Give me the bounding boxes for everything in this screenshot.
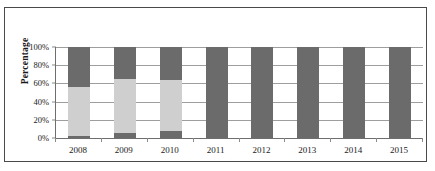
x-tick-mark: [284, 138, 285, 142]
bar-slot: [194, 47, 240, 138]
stacked-bar[interactable]: [68, 47, 90, 138]
bar-slot: [331, 47, 377, 138]
plot-area: [55, 47, 423, 139]
y-tick-label: 40%: [33, 97, 49, 107]
bar-segment[interactable]: [343, 47, 365, 138]
x-tick-slot: 2010: [147, 138, 193, 162]
x-tick-label: 2008: [55, 145, 101, 155]
stacked-bar[interactable]: [297, 47, 319, 138]
x-tick-label: 2013: [284, 145, 330, 155]
bar-slot: [56, 47, 102, 138]
x-tick-label: 2011: [193, 145, 239, 155]
x-tick-mark: [193, 138, 194, 142]
stacked-bar[interactable]: [206, 47, 228, 138]
x-axis-tick-labels: 20082009201020112012201320142015: [55, 138, 422, 162]
y-tick-label: 60%: [33, 78, 49, 88]
y-tick-label: 80%: [33, 60, 49, 70]
bar-segment[interactable]: [160, 80, 182, 131]
x-tick-label: 2010: [147, 145, 193, 155]
bar-segment[interactable]: [68, 47, 90, 87]
bar-group: [56, 47, 423, 138]
x-tick-slot: 2012: [239, 138, 285, 162]
x-tick-mark: [147, 138, 148, 142]
bar-segment[interactable]: [68, 136, 90, 138]
chart-figure: Percentage 100%80%60%40%20%0% 2008200920…: [0, 0, 435, 171]
bar-segment[interactable]: [114, 79, 136, 134]
bar-segment[interactable]: [206, 47, 228, 138]
bar-slot: [148, 47, 194, 138]
x-tick-slot: 2011: [193, 138, 239, 162]
x-tick-mark: [239, 138, 240, 142]
bar-segment[interactable]: [114, 47, 136, 79]
bar-slot: [240, 47, 286, 138]
x-tick-label: 2015: [376, 145, 422, 155]
stacked-bar[interactable]: [160, 47, 182, 138]
bar-segment[interactable]: [160, 131, 182, 138]
bar-segment[interactable]: [160, 47, 182, 80]
bar-slot: [285, 47, 331, 138]
stacked-bar[interactable]: [389, 47, 411, 138]
x-tick-slot: 2008: [55, 138, 101, 162]
x-tick-mark: [101, 138, 102, 142]
bar-segment[interactable]: [114, 133, 136, 138]
y-axis-tick-labels: 100%80%60%40%20%0%: [19, 47, 52, 138]
bar-segment[interactable]: [297, 47, 319, 138]
bar-segment[interactable]: [68, 87, 90, 136]
x-tick-slot: 2014: [330, 138, 376, 162]
bar-segment[interactable]: [251, 47, 273, 138]
y-tick-label: 0%: [38, 133, 49, 143]
x-tick-mark: [55, 138, 56, 142]
x-tick-mark: [330, 138, 331, 142]
x-tick-mark: [376, 138, 377, 142]
x-tick-slot: 2009: [101, 138, 147, 162]
y-tick-label: 20%: [33, 115, 49, 125]
bar-slot: [102, 47, 148, 138]
x-tick-label: 2009: [101, 145, 147, 155]
stacked-bar[interactable]: [114, 47, 136, 138]
bar-segment[interactable]: [389, 47, 411, 138]
stacked-bar[interactable]: [343, 47, 365, 138]
x-tick-slot: 2015: [376, 138, 422, 162]
y-tick-label: 100%: [29, 42, 49, 52]
x-axis-end-tick: [422, 138, 423, 142]
x-tick-slot: 2013: [284, 138, 330, 162]
stacked-bar[interactable]: [251, 47, 273, 138]
x-tick-label: 2012: [239, 145, 285, 155]
bar-slot: [377, 47, 423, 138]
x-tick-label: 2014: [330, 145, 376, 155]
chart-frame: Percentage 100%80%60%40%20%0% 2008200920…: [4, 7, 427, 162]
